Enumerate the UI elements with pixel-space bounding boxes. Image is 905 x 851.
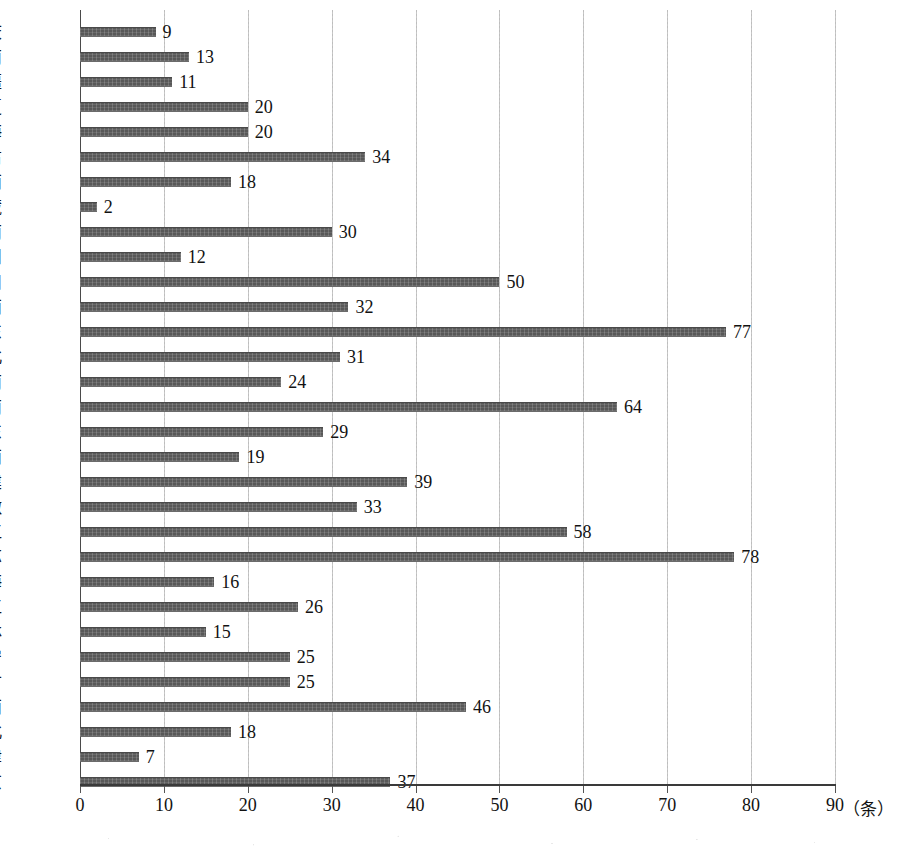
bar-value-label: 15 — [213, 620, 231, 645]
bar-value-label: 18 — [238, 170, 256, 195]
category-label: 吉林 — [0, 620, 2, 645]
category-label: 浙江 — [0, 520, 2, 545]
bar — [80, 277, 499, 287]
x-tick-label-50: 50 — [490, 795, 508, 816]
bar — [80, 677, 290, 687]
category-label: 湖南 — [0, 370, 2, 395]
bar-row: 山西46 — [80, 695, 835, 720]
bar-value-label: 37 — [397, 770, 415, 795]
category-label: 江西 — [0, 445, 2, 470]
bar-row: 上海16 — [80, 570, 835, 595]
bar — [80, 152, 365, 162]
category-label: 云南 — [0, 220, 2, 245]
bar — [80, 477, 407, 487]
category-label: 山东 — [0, 420, 2, 445]
x-axis-line — [80, 784, 836, 786]
category-label: 内蒙古 — [0, 670, 2, 695]
bar — [80, 502, 357, 512]
x-tick-80 — [751, 786, 752, 793]
bar-value-label: 33 — [364, 495, 382, 520]
category-label: 广西 — [0, 295, 2, 320]
bar-value-label: 7 — [146, 745, 155, 770]
bar-row: 四川50 — [80, 270, 835, 295]
bar-row: 江苏78 — [80, 545, 835, 570]
bar-value-label: 58 — [574, 520, 592, 545]
bar — [80, 452, 239, 462]
bar-row: 湖南24 — [80, 370, 835, 395]
bar-value-label: 64 — [624, 395, 642, 420]
bar-row: 江西19 — [80, 445, 835, 470]
bar — [80, 427, 323, 437]
category-label: 黑龙江 — [0, 595, 2, 620]
bar-value-label: 2 — [104, 195, 113, 220]
bar-value-label: 26 — [305, 595, 323, 620]
bar-value-label: 39 — [414, 470, 432, 495]
bar-value-label: 11 — [179, 70, 196, 95]
bar-value-label: 29 — [330, 420, 348, 445]
category-label: 宁夏 — [0, 95, 2, 120]
category-label: 四川 — [0, 270, 2, 295]
bar-row: 山东29 — [80, 420, 835, 445]
category-label: 湖北 — [0, 345, 2, 370]
bar-value-label: 25 — [297, 645, 315, 670]
bar — [80, 302, 348, 312]
bar — [80, 227, 332, 237]
bar — [80, 652, 290, 662]
bar-row: 辽宁25 — [80, 645, 835, 670]
bar-value-label: 20 — [255, 120, 273, 145]
bar-row: 海南13 — [80, 45, 835, 70]
category-label: 安徽 — [0, 495, 2, 520]
category-label: 河南 — [0, 395, 2, 420]
bar-row: 北京37 — [80, 770, 835, 795]
bar-row: 新疆11 — [80, 70, 835, 95]
bar-row: 云南30 — [80, 220, 835, 245]
category-label: 新疆 — [0, 70, 2, 95]
bar — [80, 377, 281, 387]
bar — [80, 727, 231, 737]
bar — [80, 627, 206, 637]
x-tick-70 — [667, 786, 668, 793]
bar-value-label: 24 — [288, 370, 306, 395]
bar — [80, 552, 734, 562]
bar-row: 贵州12 — [80, 245, 835, 270]
x-tick-90 — [835, 786, 836, 793]
bar-row: 重庆9 — [80, 20, 835, 45]
bar — [80, 127, 248, 137]
horizontal-bar-chart: 重庆9海南13新疆11宁夏20青海20甘肃34陕西18西藏2云南30贵州12四川… — [0, 0, 905, 851]
bar-row: 黑龙江26 — [80, 595, 835, 620]
bar — [80, 77, 172, 87]
bar-value-label: 9 — [163, 20, 172, 45]
bar-value-label: 50 — [506, 270, 524, 295]
x-tick-10 — [164, 786, 165, 793]
category-label: 上海 — [0, 570, 2, 595]
bar — [80, 202, 97, 212]
bar — [80, 252, 181, 262]
category-label: 辽宁 — [0, 645, 2, 670]
gridline-90 — [835, 10, 836, 785]
bar-value-label: 13 — [196, 45, 214, 70]
bar — [80, 702, 466, 712]
bar-row: 河南64 — [80, 395, 835, 420]
category-label: 福建 — [0, 470, 2, 495]
x-tick-30 — [332, 786, 333, 793]
x-tick-20 — [248, 786, 249, 793]
x-tick-40 — [416, 786, 417, 793]
category-label: 广东 — [0, 320, 2, 345]
category-label: 北京 — [0, 770, 2, 795]
x-tick-label-40: 40 — [407, 795, 425, 816]
category-label: 海南 — [0, 45, 2, 70]
bar-value-label: 78 — [741, 545, 759, 570]
bar — [80, 177, 231, 187]
bar-value-label: 31 — [347, 345, 365, 370]
bar-value-label: 34 — [372, 145, 390, 170]
bar-row: 内蒙古25 — [80, 670, 835, 695]
category-label: 天津 — [0, 745, 2, 770]
category-label: 江苏 — [0, 545, 2, 570]
bar-row: 西藏2 — [80, 195, 835, 220]
category-label: 贵州 — [0, 245, 2, 270]
bar — [80, 527, 567, 537]
bar-row: 青海20 — [80, 120, 835, 145]
bar-value-label: 12 — [188, 245, 206, 270]
bar — [80, 602, 298, 612]
bar-value-label: 19 — [246, 445, 264, 470]
